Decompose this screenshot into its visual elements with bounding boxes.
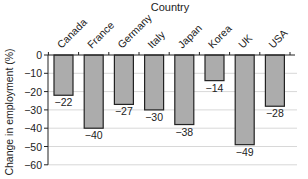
axes [44,52,295,165]
bar-chart: 0−10−20−30−40−50−60−22Canada−40France−27… [0,0,308,179]
value-label: −38 [175,126,193,138]
value-label: −49 [236,146,254,158]
bar-canada [54,55,73,95]
category-label: Japan [175,22,204,51]
y-tick-label: −40 [24,122,42,134]
x-axis-title: Country [151,1,190,13]
y-tick-label: −60 [24,159,42,171]
bar-korea [205,55,224,81]
category-label: USA [266,27,290,51]
value-label: −27 [115,105,133,117]
category-label: Canada [54,16,89,51]
value-label: −22 [55,96,73,108]
value-label: −40 [85,129,103,141]
bar-germany [114,55,133,104]
y-axis-title: Change in employment (%) [3,48,15,175]
value-label: −14 [206,82,224,94]
y-tick-label: −20 [24,86,42,98]
y-tick-label: −50 [24,141,42,153]
category-label: Korea [205,22,233,50]
y-tick-label: −10 [24,67,42,79]
category-label: Italy [145,28,168,51]
bar-france [84,55,103,128]
value-label: −28 [266,107,284,119]
bar-japan [175,55,194,125]
category-label: France [85,19,117,51]
category-label: UK [236,32,255,51]
y-tick-label: 0 [36,49,42,61]
value-label: −30 [145,111,163,123]
bar-usa [265,55,284,106]
bar-italy [145,55,164,110]
bar-uk [235,55,254,145]
y-tick-label: −30 [24,104,42,116]
